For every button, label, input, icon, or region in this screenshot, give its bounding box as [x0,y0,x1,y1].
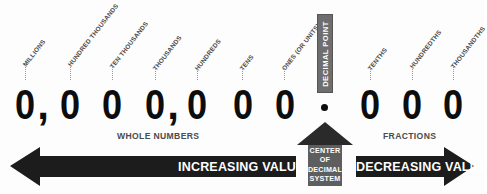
right-arrow-label: DECREASING VALUE [356,160,487,174]
center-arrow-line-1: CENTER [297,146,353,155]
left-arrow-label: INCREASING VALUE [178,160,305,174]
center-arrow: CENTER OF DECIMAL SYSTEM [297,122,353,186]
center-arrow-label: CENTER OF DECIMAL SYSTEM [297,146,353,183]
center-arrow-line-3: DECIMAL [297,165,353,174]
center-arrow-line-2: OF [297,155,353,164]
center-arrow-head [297,122,353,145]
center-arrow-line-4: SYSTEM [297,174,353,183]
